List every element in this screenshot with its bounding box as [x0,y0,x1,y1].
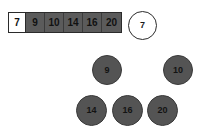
sorted-array-strip: 7 9 10 14 16 20 [8,12,122,33]
graph-node-16[interactable]: 16 [112,95,143,126]
graph-node-14[interactable]: 14 [76,95,107,126]
array-cell-3[interactable]: 14 [64,13,83,32]
graph-node-10[interactable]: 10 [163,55,193,85]
graph-node-7[interactable]: 7 [128,11,157,40]
graph-node-9[interactable]: 9 [92,55,122,85]
array-cell-5[interactable]: 20 [102,13,121,32]
graph-node-20[interactable]: 20 [147,95,178,126]
array-cell-4[interactable]: 16 [83,13,102,32]
array-cell-2[interactable]: 10 [45,13,64,32]
visualization-canvas: 7 9 10 14 16 20 7 9 10 14 16 20 [0,0,207,130]
array-cell-0[interactable]: 7 [9,13,26,32]
array-cell-1[interactable]: 9 [26,13,45,32]
